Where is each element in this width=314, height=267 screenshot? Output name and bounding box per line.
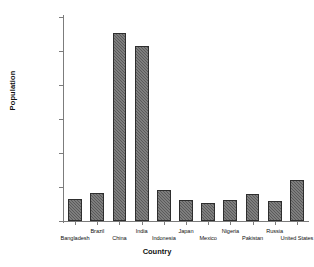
bar bbox=[68, 199, 82, 221]
x-tick-label: Brazil bbox=[90, 228, 104, 234]
y-tick-mark bbox=[59, 85, 63, 86]
x-tick-mark bbox=[275, 221, 276, 225]
x-tick-mark bbox=[297, 221, 298, 225]
x-tick-mark bbox=[97, 221, 98, 225]
x-tick-mark bbox=[186, 221, 187, 225]
bar bbox=[135, 46, 149, 221]
x-tick-label: Indonesia bbox=[152, 235, 176, 241]
x-tick-mark bbox=[142, 221, 143, 225]
x-tick-label: Nigeria bbox=[222, 228, 239, 234]
y-tick-mark bbox=[59, 187, 63, 188]
bar bbox=[90, 193, 104, 221]
x-tick-label: Bangladesh bbox=[61, 235, 90, 241]
bar bbox=[157, 190, 171, 221]
bar bbox=[268, 201, 282, 221]
plot-area bbox=[64, 17, 308, 221]
bar bbox=[113, 33, 127, 221]
y-tick-mark bbox=[59, 119, 63, 120]
x-tick-label: Pakistan bbox=[242, 235, 263, 241]
bar bbox=[246, 194, 260, 221]
y-tick-mark bbox=[59, 51, 63, 52]
bar bbox=[179, 200, 193, 221]
x-tick-mark bbox=[253, 221, 254, 225]
x-tick-mark bbox=[75, 221, 76, 225]
x-tick-label: India bbox=[136, 228, 148, 234]
x-tick-mark bbox=[208, 221, 209, 225]
x-axis-title: Country bbox=[0, 247, 314, 256]
y-axis-title: Population bbox=[8, 51, 17, 131]
y-tick-mark bbox=[59, 221, 63, 222]
y-tick-mark bbox=[59, 17, 63, 18]
x-tick-mark bbox=[164, 221, 165, 225]
x-tick-label: Japan bbox=[179, 228, 194, 234]
x-tick-label: China bbox=[112, 235, 126, 241]
bar bbox=[201, 203, 215, 221]
x-tick-label: Russia bbox=[266, 228, 283, 234]
x-tick-label: United States bbox=[280, 235, 313, 241]
bar bbox=[290, 180, 304, 221]
x-tick-label: Mexico bbox=[199, 235, 216, 241]
y-tick-mark bbox=[59, 153, 63, 154]
bar-chart: Population 0250,000,000500,000,000750,00… bbox=[0, 0, 314, 267]
bar bbox=[223, 200, 237, 221]
x-tick-mark bbox=[230, 221, 231, 225]
x-tick-mark bbox=[119, 221, 120, 225]
